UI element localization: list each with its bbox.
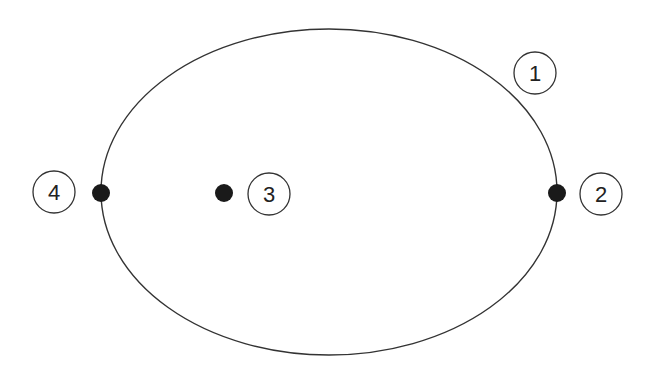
label-2-text: 2	[595, 182, 607, 207]
label-3-text: 3	[263, 182, 275, 207]
label-1: 1	[514, 52, 556, 94]
point-4-dot	[92, 184, 110, 202]
point-2-dot	[548, 184, 566, 202]
label-2: 2	[580, 173, 622, 215]
label-3: 3	[248, 173, 290, 215]
label-4: 4	[33, 171, 75, 213]
label-4-text: 4	[48, 180, 60, 205]
point-3-dot	[215, 184, 233, 202]
label-1-text: 1	[529, 61, 541, 86]
orbit-diagram: 1 2 3 4	[0, 0, 657, 380]
ellipse-orbit	[101, 29, 557, 355]
